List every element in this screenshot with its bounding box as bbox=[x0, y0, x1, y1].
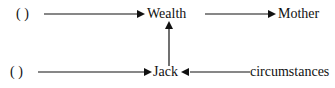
node-jack: Jack bbox=[153, 64, 178, 80]
blank-node-top: ( ) bbox=[16, 6, 29, 22]
node-mother: Mother bbox=[278, 6, 319, 22]
blank-node-bottom: ( ) bbox=[10, 64, 23, 80]
node-wealth: Wealth bbox=[147, 6, 186, 22]
node-circumstances: circumstances bbox=[250, 64, 329, 80]
